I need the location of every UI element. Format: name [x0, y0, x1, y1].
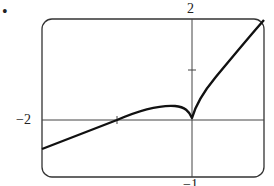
function-curve [42, 20, 264, 149]
y-min-label: −1 [183, 178, 198, 186]
graph-window [0, 0, 274, 186]
graph-frame [42, 19, 264, 177]
x-min-label: −2 [16, 113, 31, 127]
y-max-label: 2 [187, 2, 194, 16]
